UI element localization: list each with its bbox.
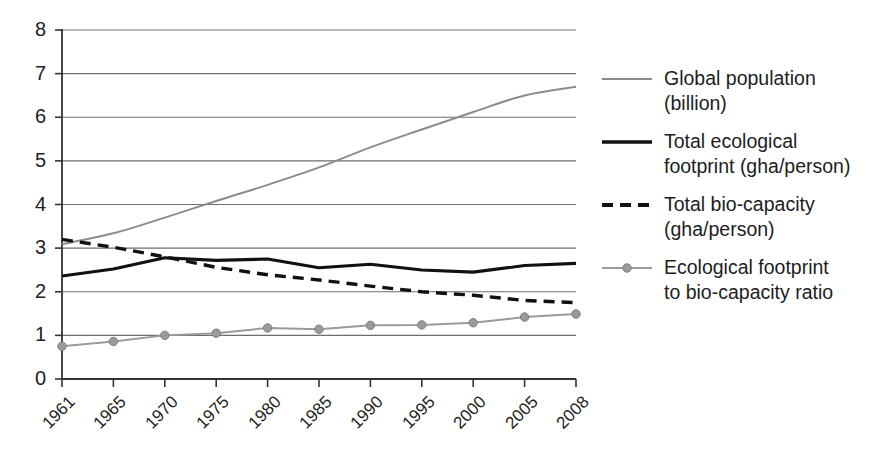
y-tick-marks <box>55 30 62 379</box>
y-tick-label: 4 <box>20 194 46 214</box>
y-tick-label: 2 <box>20 281 46 301</box>
series-line-population <box>62 87 576 244</box>
data-point-footprint-ratio <box>109 337 117 345</box>
y-tick-label: 5 <box>20 150 46 170</box>
y-tick-label: 8 <box>20 19 46 39</box>
y-tick-label: 3 <box>20 237 46 257</box>
y-tick-label: 0 <box>20 368 46 388</box>
legend-marker <box>623 264 631 272</box>
series-line-ecological-footprint <box>62 258 576 276</box>
data-point-footprint-ratio <box>315 325 323 333</box>
y-tick-label: 7 <box>20 63 46 83</box>
data-point-footprint-ratio <box>212 329 220 337</box>
gridlines <box>62 30 576 335</box>
chart-legend: Global population (billion)Total ecologi… <box>600 66 882 318</box>
data-point-footprint-ratio <box>263 324 271 332</box>
legend-label: Ecological footprint to bio-capacity rat… <box>664 255 833 305</box>
data-point-footprint-ratio <box>58 342 66 350</box>
data-point-footprint-ratio <box>520 313 528 321</box>
data-point-footprint-ratio <box>418 321 426 329</box>
data-point-footprint-ratio <box>161 331 169 339</box>
chart-figure: 012345678 196119651970197519801985199019… <box>0 0 882 466</box>
data-point-footprint-ratio <box>366 321 374 329</box>
y-tick-label: 6 <box>20 106 46 126</box>
marker-line-sample <box>600 255 654 279</box>
x-tick-marks <box>62 379 576 387</box>
thin-line-sample <box>600 66 654 90</box>
legend-label: Total ecological footprint (gha/person) <box>664 129 850 179</box>
y-tick-label: 1 <box>20 324 46 344</box>
legend-item: Ecological footprint to bio-capacity rat… <box>600 255 882 305</box>
series-line-bio-capacity <box>62 239 576 302</box>
legend-item: Total ecological footprint (gha/person) <box>600 129 882 179</box>
legend-item: Total bio-capacity (gha/person) <box>600 192 882 242</box>
thick-line-sample <box>600 129 654 153</box>
legend-label: Global population (billion) <box>664 66 816 116</box>
dashed-line-sample <box>600 192 654 216</box>
data-series-layer <box>58 87 580 351</box>
data-point-footprint-ratio <box>572 310 580 318</box>
data-point-footprint-ratio <box>469 319 477 327</box>
legend-label: Total bio-capacity (gha/person) <box>664 192 815 242</box>
legend-item: Global population (billion) <box>600 66 882 116</box>
